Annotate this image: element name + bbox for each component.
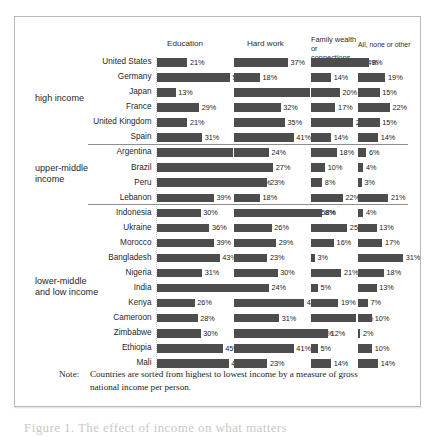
bar [358,103,390,112]
bar-value-label: 4% [366,163,377,172]
bar-value-label: 5% [320,344,331,353]
bar-value-label: 31% [205,133,220,142]
bar [311,194,343,203]
bar-value-label: 19% [341,298,356,307]
bar [234,239,277,248]
bar [358,359,379,368]
bar-value-label: 31% [205,268,220,277]
bar-value-label: 14% [334,73,349,82]
table-row: United States21%37%34%8% [15,55,420,70]
table-row: United Kingdom21%35%29%15% [15,115,420,130]
group-label-line: high income [35,93,145,105]
chart-note: Note: Countries are sorted from highest … [59,368,389,393]
bar [358,269,384,278]
group-label-line: and low income [35,287,145,299]
bar [311,58,361,67]
bar [358,194,389,203]
bar-value-label: 37% [290,58,305,67]
bar [311,148,337,157]
bar [311,88,340,97]
group-separator [88,144,408,145]
country-label: Germany [118,72,152,81]
table-row: Ukraine36%26%25%13% [15,221,420,236]
chart-panel: EducationHard workFamily wealthor connec… [14,16,421,407]
bar-value-label: 18% [340,148,355,157]
bar [358,163,364,172]
column-header-row: EducationHard workFamily wealthor connec… [15,17,420,57]
country-label: Cameroon [113,313,151,322]
bar [157,269,203,278]
bar-value-label: 30% [280,268,295,277]
country-label: Indonesia [116,208,152,217]
bar [234,194,260,203]
bar [234,299,305,308]
group-separator [88,204,408,205]
table-row: Ethiopia45%41%5%10% [15,341,420,356]
bar [311,133,332,142]
bar [157,148,233,157]
bar [157,58,188,67]
country-label: United Kingdom [93,117,151,126]
bar-value-label: 24% [271,283,286,292]
bar-value-label: 13% [379,223,394,232]
bar-value-label: 24% [271,148,286,157]
country-label: Kenya [128,298,151,307]
bar-value-label: 10% [375,344,390,353]
bar [157,88,176,97]
bar [234,73,260,82]
bar-value-label: 18% [263,73,278,82]
table-row: Argentina52%24%18%6% [15,145,420,160]
column-header-line1: Family wealth [311,35,356,44]
bar [311,178,323,187]
bar-value-label: 10% [328,163,343,172]
country-label: Argentina [116,147,151,156]
bar [157,299,195,308]
bar-value-label: 8% [325,208,336,217]
bar [311,314,357,323]
bar-value-label: 14% [334,359,349,368]
bar [234,344,294,353]
bar-value-label: 17% [385,238,400,247]
bar [157,239,214,248]
bar [358,329,361,338]
bar [358,58,370,67]
column-header-4: All, none or other [358,40,424,49]
bar-value-label: 26% [274,223,289,232]
group-label-line: upper-middle [35,163,145,175]
bar [311,299,339,308]
bar [234,58,288,67]
bar [358,178,362,187]
bar [358,133,379,142]
group-label-line: lower-middle [35,276,145,288]
bar-value-label: 27% [276,163,291,172]
bar [234,269,278,278]
bar [234,209,319,218]
group-label-line: income [35,174,145,186]
bar-value-label: 14% [381,359,396,368]
bar [311,73,332,82]
bar-value-label: 22% [392,103,407,112]
bar-value-label: 15% [382,118,397,127]
bar-value-label: 17% [338,103,353,112]
bar [157,133,203,142]
bar [358,73,386,82]
bar [234,88,310,97]
country-label: Spain [131,132,152,141]
bar [311,118,354,127]
bar-value-label: 2% [363,329,374,338]
note-text: Countries are sorted from highest to low… [90,368,389,393]
bar [358,239,383,248]
bar [358,88,380,97]
group-label: high income [35,93,145,105]
bar-value-label: 21% [344,268,359,277]
country-label: Zimbabwe [114,328,152,337]
bar-value-label: 5% [320,283,331,292]
bar [157,284,241,293]
country-label: Lebanon [120,193,152,202]
bar-value-label: 18% [263,193,278,202]
country-label: Ukraine [123,223,151,232]
bar [358,224,377,233]
bar [234,224,272,233]
bar [234,103,281,112]
table-row: Germany50%18%14%19% [15,70,420,85]
